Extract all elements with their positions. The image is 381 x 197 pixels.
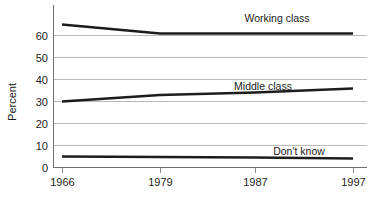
series-label-middle-class: Middle class — [234, 80, 292, 92]
y-tick-label-10: 10 — [36, 140, 48, 152]
x-tick-labels: 1966 1979 1987 1997 — [50, 176, 365, 188]
y-tick-label-60: 60 — [36, 30, 48, 42]
line-chart: 60 50 40 30 20 10 0 1966 1979 1987 1997 … — [0, 0, 381, 197]
series-line-working-class — [62, 25, 353, 34]
series-line-middle-class — [62, 89, 353, 102]
series-lines — [62, 25, 353, 159]
y-tick-labels: 60 50 40 30 20 10 0 — [36, 30, 48, 174]
y-tick-label-40: 40 — [36, 74, 48, 86]
y-tick-label-0: 0 — [42, 162, 48, 174]
x-tick-marks — [63, 168, 354, 174]
chart-figure: 60 50 40 30 20 10 0 1966 1979 1987 1997 … — [0, 0, 381, 197]
series-label-dont-know: Don't know — [273, 145, 325, 157]
y-axis-title: Percent — [6, 83, 18, 121]
series-label-working-class: Working class — [244, 12, 309, 24]
y-tick-label-50: 50 — [36, 52, 48, 64]
axes — [53, 5, 367, 168]
x-tick-label-1987: 1987 — [243, 176, 267, 188]
x-tick-label-1997: 1997 — [341, 176, 365, 188]
y-tick-label-30: 30 — [36, 96, 48, 108]
y-tick-label-20: 20 — [36, 118, 48, 130]
x-tick-label-1979: 1979 — [148, 176, 172, 188]
x-tick-label-1966: 1966 — [50, 176, 74, 188]
